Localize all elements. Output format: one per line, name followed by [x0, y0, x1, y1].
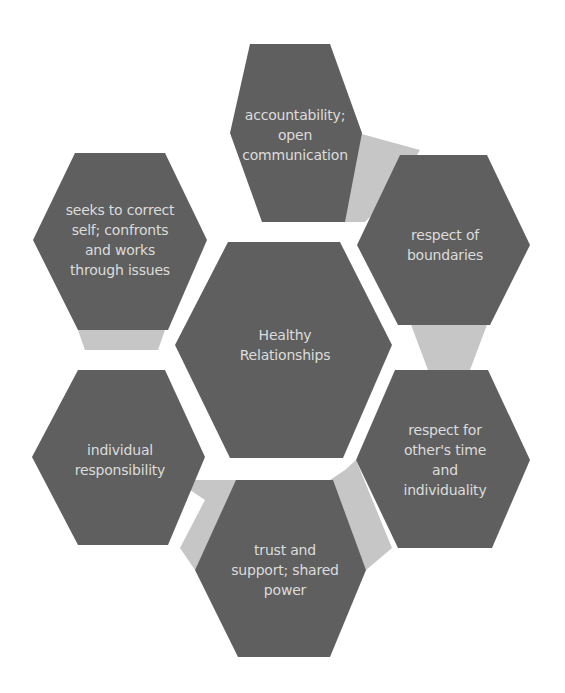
label-line: other's time [403, 440, 486, 460]
label-line: through issues [66, 260, 175, 280]
label-line: Healthy [240, 325, 331, 345]
connector-bottomleft-to-topleft [78, 330, 165, 350]
label-line: and works [66, 240, 175, 260]
label-line: seeks to correct [66, 200, 175, 220]
center-label: Healthy Relationships [200, 315, 370, 375]
label-line: and [403, 460, 486, 480]
node-label-bottom-right: respect for other's time and individuali… [370, 410, 520, 510]
node-label-bottom-left: individual responsibility [40, 430, 200, 490]
node-label-bottom: trust and support; shared power [205, 530, 365, 610]
label-line: respect for [403, 420, 486, 440]
label-line: communication [242, 145, 348, 165]
label-line: respect of [407, 225, 483, 245]
label-line: individuality [403, 480, 486, 500]
node-label-top-left: seeks to correct self; confronts and wor… [40, 195, 200, 285]
label-line: self; confronts [66, 220, 175, 240]
node-label-top-right: respect of boundaries [370, 210, 520, 280]
label-line: accountability; [242, 105, 348, 125]
connector-topright-to-bottomright [410, 322, 488, 370]
node-label-top: accountability; open communication [232, 90, 358, 180]
label-line: trust and [231, 540, 339, 560]
label-line: responsibility [75, 460, 165, 480]
label-line: boundaries [407, 245, 483, 265]
label-line: open [242, 125, 348, 145]
label-line: individual [75, 440, 165, 460]
label-line: Relationships [240, 345, 331, 365]
label-line: support; shared [231, 560, 339, 580]
label-line: power [231, 580, 339, 600]
